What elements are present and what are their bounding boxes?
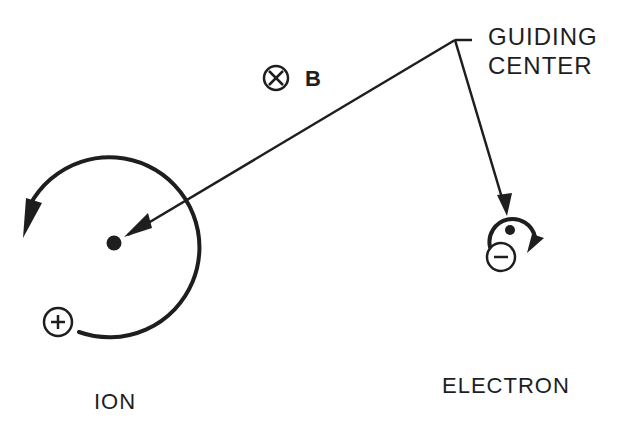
ion-direction-arrow-icon: [23, 198, 42, 238]
field-into-page-icon: [264, 66, 288, 90]
guiding-center-label: GUIDING CENTER: [488, 22, 598, 80]
ion-center-dot: [107, 236, 122, 251]
ion-orbit: [23, 157, 199, 337]
positive-charge-icon: [44, 308, 72, 336]
electron-center-dot: [505, 225, 515, 235]
magnetic-field-label: B: [305, 66, 322, 92]
electron-direction-arrow-icon: [527, 234, 544, 253]
electron-orbit: [487, 219, 544, 271]
ion-guiding-center-arrow: [128, 40, 455, 235]
guiding-center-label-line1: GUIDING: [488, 22, 598, 51]
negative-charge-icon: [487, 243, 515, 271]
guiding-center-label-line2: CENTER: [488, 51, 598, 80]
ion-arrowhead-icon: [124, 213, 152, 237]
ion-label: ION: [94, 389, 136, 415]
electron-label: ELECTRON: [442, 373, 570, 399]
electron-arrowhead-icon: [497, 193, 512, 216]
